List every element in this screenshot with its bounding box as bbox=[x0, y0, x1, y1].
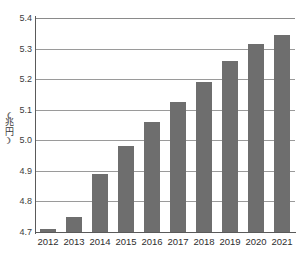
bar-2016 bbox=[144, 122, 160, 232]
x-tick-label-2018: 2018 bbox=[191, 236, 217, 248]
y-tick-label-4-9: 4.9 bbox=[8, 167, 32, 176]
x-axis-line bbox=[35, 232, 296, 233]
x-tick-label-2019: 2019 bbox=[217, 236, 243, 248]
bar-2017 bbox=[170, 102, 186, 232]
y-tick-label-5-2: 5.2 bbox=[8, 75, 32, 84]
y-tick-label-5-1: 5.1 bbox=[8, 106, 32, 115]
bar-chart: ( 兆 円 ) 5.45.35.25.15.04.94.84.7 2012201… bbox=[0, 0, 301, 262]
bar-2019 bbox=[222, 61, 238, 232]
y-tick-label-5-0: 5.0 bbox=[8, 136, 32, 145]
y-tick-label-4-8: 4.8 bbox=[8, 197, 32, 206]
plot-inner bbox=[35, 18, 295, 232]
bar-2020 bbox=[248, 44, 264, 232]
bar-2018 bbox=[196, 82, 212, 232]
x-tick-label-2013: 2013 bbox=[61, 236, 87, 248]
x-tick-label-2020: 2020 bbox=[243, 236, 269, 248]
x-axis-tick-labels: 2012201320142015201620172018201920202021 bbox=[35, 236, 297, 252]
y-tick-label-5-3: 5.3 bbox=[8, 45, 32, 54]
bar-2015 bbox=[118, 146, 134, 232]
x-tick-label-2015: 2015 bbox=[113, 236, 139, 248]
x-tick-label-2014: 2014 bbox=[87, 236, 113, 248]
y-tick-label-4-7: 4.7 bbox=[8, 228, 32, 237]
y-axis-line bbox=[35, 16, 36, 234]
plot-area bbox=[35, 18, 295, 232]
x-tick-label-2021: 2021 bbox=[269, 236, 295, 248]
bar-2013 bbox=[66, 217, 82, 232]
bar-2021 bbox=[274, 35, 290, 232]
x-tick-label-2016: 2016 bbox=[139, 236, 165, 248]
x-tick-label-2012: 2012 bbox=[35, 236, 61, 248]
gridline-5-4 bbox=[35, 18, 295, 19]
x-tick-label-2017: 2017 bbox=[165, 236, 191, 248]
y-axis-tick-labels: 5.45.35.25.15.04.94.84.7 bbox=[4, 0, 32, 262]
bar-2014 bbox=[92, 174, 108, 232]
y-tick-label-5-4: 5.4 bbox=[8, 14, 32, 23]
